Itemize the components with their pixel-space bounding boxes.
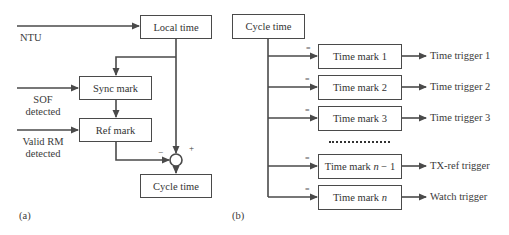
sof-label-line2: detected [18,106,68,118]
comparator-symbol-n-1: = [305,155,310,163]
time-trigger-2-label: Time trigger 2 [430,81,490,93]
time-trigger-3-label: Time trigger 3 [430,112,490,124]
time-mark-2-block: Time mark 2 [318,75,402,100]
cycle-time-block-b: Cycle time [232,14,305,39]
junction-minus-sign: − [158,146,163,158]
sof-label-line1: SOF [18,94,68,106]
tx-ref-trigger-label: TX-ref trigger [430,160,490,172]
time-mark-n-1-block: Time mark n − 1 [318,154,402,179]
comparator-symbol-3: = [305,107,310,115]
local-time-block: Local time [140,15,212,39]
junction-plus-sign: + [189,142,194,154]
time-mark-n-1-prefix: Time mark [325,161,374,172]
valid-rm-label-line1: Valid RM [17,136,69,148]
panel-b-caption: (b) [232,210,244,222]
sync-mark-block: Sync mark [79,76,152,100]
cycle-time-block-a: Cycle time [140,174,212,198]
time-trigger-1-label: Time trigger 1 [430,50,490,62]
time-mark-n-block: Time mark n [318,185,402,210]
comparator-symbol-2: = [305,76,310,84]
time-mark-3-block: Time mark 3 [318,106,402,131]
time-mark-1-block: Time mark 1 [318,44,402,69]
time-mark-n-1-suffix: − 1 [379,161,395,172]
panel-a-caption: (a) [19,210,31,222]
ellipsis-dotted-line [329,141,390,143]
comparator-symbol-n: = [305,186,310,194]
valid-rm-label-line2: detected [17,148,69,160]
local-to-sync-arrow [116,57,176,75]
comparator-symbol-1: = [306,45,311,53]
summing-junction [170,154,182,166]
watch-trigger-label: Watch trigger [430,191,487,203]
ntu-label: NTU [20,32,42,44]
sof-detected-label: SOF detected [18,94,68,118]
time-mark-n-var: n [382,192,387,203]
ref-mark-block: Ref mark [79,118,152,142]
valid-rm-detected-label: Valid RM detected [17,136,69,160]
time-mark-n-prefix: Time mark [333,192,382,203]
